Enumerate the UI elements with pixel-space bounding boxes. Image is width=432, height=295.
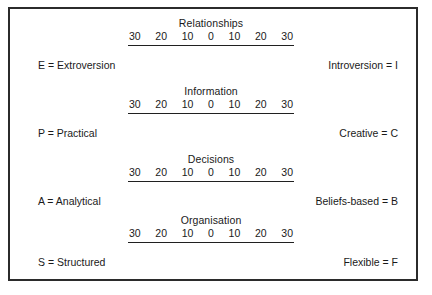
scale-tick: 10 <box>229 227 241 240</box>
scale-tick: 20 <box>255 166 267 179</box>
scale-tick: 20 <box>255 227 267 240</box>
scale-title: Information <box>128 85 294 98</box>
scale-axis-line <box>128 181 294 182</box>
scale-section-organisation: Organisation 30 20 10 0 10 20 30 S = Str… <box>10 214 416 282</box>
scale-section-relationships: Relationships 30 20 10 0 10 20 30 E = Ex… <box>10 17 416 85</box>
scale-tick: 10 <box>182 98 194 111</box>
pole-label-row: A = Analytical Beliefs-based = B <box>10 193 416 209</box>
scale-tick-row: 30 20 10 0 10 20 30 <box>128 98 294 111</box>
scale-tick: 10 <box>182 227 194 240</box>
scale-tick: 10 <box>182 30 194 43</box>
scale-tick: 10 <box>229 30 241 43</box>
scale-tick: 10 <box>229 166 241 179</box>
scale-tick: 20 <box>155 30 167 43</box>
scale-section-decisions: Decisions 30 20 10 0 10 20 30 A = Analyt… <box>10 153 416 221</box>
scale-tick: 30 <box>129 227 141 240</box>
scale-tick: 0 <box>208 98 214 111</box>
scale-tick: 30 <box>129 30 141 43</box>
scale-tick: 20 <box>155 166 167 179</box>
scale-axis-line <box>128 242 294 243</box>
scale-tick: 30 <box>281 227 293 240</box>
scale-tick: 30 <box>129 98 141 111</box>
pole-label-left: A = Analytical <box>38 193 101 209</box>
scale-section-information: Information 30 20 10 0 10 20 30 P = Prac… <box>10 85 416 153</box>
scale-tick: 30 <box>129 166 141 179</box>
scale-tick: 0 <box>208 30 214 43</box>
scale-tick: 20 <box>155 227 167 240</box>
pole-label-right: Flexible = F <box>343 254 398 270</box>
scale-tick-row: 30 20 10 0 10 20 30 <box>128 166 294 179</box>
scale-axis-line <box>128 45 294 46</box>
diagram-frame: Relationships 30 20 10 0 10 20 30 E = Ex… <box>8 7 418 281</box>
scale-tick: 30 <box>281 166 293 179</box>
scale-tick: 0 <box>208 166 214 179</box>
scale-tick: 20 <box>255 30 267 43</box>
scale-tick: 20 <box>255 98 267 111</box>
scale-tick-row: 30 20 10 0 10 20 30 <box>128 30 294 43</box>
scale-block: Organisation 30 20 10 0 10 20 30 <box>128 214 294 243</box>
pole-label-row: E = Extroversion Introversion = I <box>10 57 416 73</box>
scale-tick: 30 <box>281 98 293 111</box>
pole-label-right: Introversion = I <box>328 57 398 73</box>
pole-label-left: S = Structured <box>38 254 105 270</box>
scale-axis-line <box>128 113 294 114</box>
scale-block: Relationships 30 20 10 0 10 20 30 <box>128 17 294 46</box>
pole-label-row: P = Practical Creative = C <box>10 125 416 141</box>
scale-tick-row: 30 20 10 0 10 20 30 <box>128 227 294 240</box>
pole-label-right: Beliefs-based = B <box>315 193 398 209</box>
scale-title: Relationships <box>128 17 294 30</box>
pole-label-left: E = Extroversion <box>38 57 115 73</box>
scale-tick: 10 <box>229 98 241 111</box>
scale-tick: 10 <box>182 166 194 179</box>
pole-label-right: Creative = C <box>339 125 398 141</box>
scale-title: Decisions <box>128 153 294 166</box>
scale-tick: 20 <box>155 98 167 111</box>
scale-block: Information 30 20 10 0 10 20 30 <box>128 85 294 114</box>
pole-label-left: P = Practical <box>38 125 97 141</box>
scale-block: Decisions 30 20 10 0 10 20 30 <box>128 153 294 182</box>
pole-label-row: S = Structured Flexible = F <box>10 254 416 270</box>
scale-tick: 30 <box>281 30 293 43</box>
scale-tick: 0 <box>208 227 214 240</box>
scale-title: Organisation <box>128 214 294 227</box>
